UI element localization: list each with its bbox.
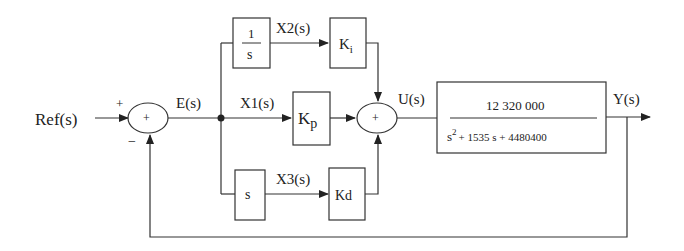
x1-label: X1(s) [240,95,274,112]
block-diagram: Ref(s) + − + E(s) X1(s) X2(s) X3(s) 1 s … [0,0,684,251]
feedback-minus-sign: − [128,134,136,149]
x2-label: X2(s) [276,20,310,37]
ref-label: Ref(s) [35,110,77,129]
output-label: Y(s) [613,91,640,108]
differentiator-label: s [245,187,250,202]
control-label: U(s) [398,91,425,108]
sum2-plus: + [372,111,379,125]
integrator-denominator: s [247,47,252,62]
ref-plus-sign: + [116,96,123,111]
junction-dot [218,115,225,122]
plant-numerator: 12 320 000 [486,98,545,113]
plant-denominator: s2+ 1535 s + 4480400 [447,127,547,144]
integrator-numerator: 1 [248,26,255,41]
ki-label: Ki [339,36,353,55]
kd-label: Kd [335,188,352,203]
x3-label: X3(s) [276,171,310,188]
kp-label: Kp [298,109,317,131]
error-label: E(s) [176,95,201,112]
sum1-plus: + [143,111,150,125]
